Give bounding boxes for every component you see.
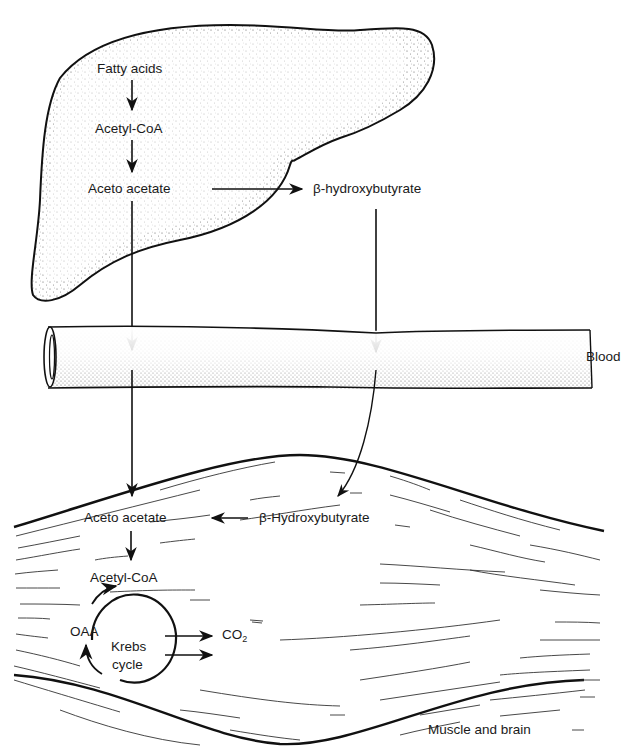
label-muscle-and-brain: Muscle and brain (428, 723, 531, 737)
muscle-tissue (14, 455, 604, 745)
label-muscle-beta-hydroxybutyrate: β-Hydroxybutyrate (259, 511, 370, 525)
label-liver-beta-hydroxybutyrate: β-hydroxybutyrate (313, 182, 421, 196)
liver-shape (32, 25, 435, 301)
label-oaa: OAA (70, 625, 99, 639)
co2-subscript: 2 (242, 634, 247, 644)
label-muscle-aceto-acetate: Aceto acetate (84, 511, 167, 525)
co2-text: CO (222, 627, 242, 642)
label-blood: Blood (586, 350, 621, 364)
label-cycle: cycle (112, 658, 143, 672)
label-liver-acetyl-coa: Acetyl-CoA (95, 122, 163, 136)
label-liver-fatty-acids: Fatty acids (97, 62, 162, 76)
blood-vessel (44, 326, 592, 389)
label-co2: CO2 (222, 628, 247, 644)
label-liver-aceto-acetate: Aceto acetate (88, 182, 171, 196)
label-krebs: Krebs (111, 640, 146, 654)
label-muscle-acetyl-coa: Acetyl-CoA (90, 571, 158, 585)
